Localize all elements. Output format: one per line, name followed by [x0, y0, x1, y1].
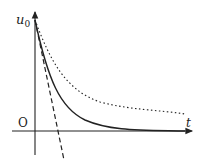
x-axis-label: t	[186, 116, 191, 130]
solid-curve	[35, 20, 185, 131]
dotted-curve	[35, 20, 185, 114]
y-axis-label: u0	[16, 12, 30, 29]
graph: u0 O t	[0, 0, 204, 164]
origin-label: O	[18, 116, 28, 130]
